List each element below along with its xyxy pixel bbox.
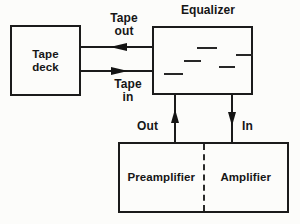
out-label: Out [122, 120, 158, 133]
tape-out-arrowhead-icon [110, 43, 127, 51]
audio-system-diagram: Tape deck Equalizer Preamplifier Amplifi… [0, 0, 300, 224]
preamplifier-section: Preamplifier [120, 144, 205, 211]
eq-slider-mark [236, 54, 253, 56]
eq-slider-mark [184, 60, 201, 62]
eq-slider-mark [164, 73, 183, 75]
tape-out-label: Tape out [96, 12, 152, 38]
amplifier-section: Amplifier [205, 144, 288, 211]
amplifier-label: Amplifier [220, 171, 271, 184]
tape-deck-box: Tape deck [10, 25, 81, 96]
out-arrowhead-icon [171, 109, 179, 123]
in-arrowhead-icon [228, 112, 236, 126]
equalizer-title: Equalizer [158, 4, 258, 17]
tape-in-label: Tape in [100, 78, 156, 104]
tape-in-arrowhead-icon [111, 67, 128, 75]
in-label: In [242, 120, 272, 133]
tape-deck-label: Tape deck [32, 48, 59, 74]
equalizer-box [152, 26, 253, 95]
eq-slider-mark [219, 66, 235, 68]
preamplifier-label: Preamplifier [127, 171, 195, 184]
preamp-amp-box: Preamplifier Amplifier [118, 142, 289, 213]
eq-slider-mark [197, 47, 217, 49]
